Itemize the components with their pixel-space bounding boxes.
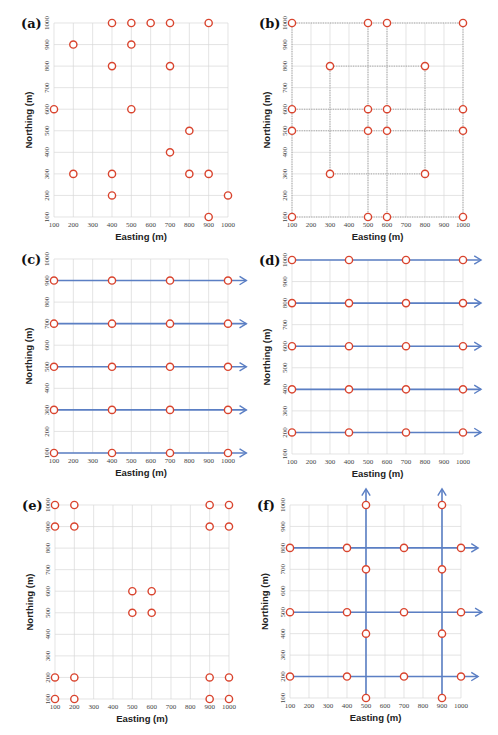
x-tick-labels: 1002003004005006007008009001000: [50, 703, 237, 711]
sample-point-marker: [364, 19, 371, 26]
sample-point-marker: [402, 256, 409, 263]
y-tick-label: 700: [44, 564, 52, 575]
y-tick-label: 1000: [281, 253, 289, 268]
sample-point-marker: [71, 674, 78, 681]
sample-point-marker: [166, 363, 173, 370]
x-tick-label: 200: [306, 221, 317, 229]
panel-e: 1002003004005006007008009001000100200300…: [22, 498, 237, 725]
sample-point-marker: [50, 406, 57, 413]
sample-point-marker: [166, 406, 173, 413]
y-tick-label: 400: [44, 629, 52, 640]
sample-point-marker: [205, 213, 212, 220]
x-tick-label: 500: [363, 221, 374, 229]
panel-label: (b): [259, 16, 280, 31]
traverse-route-arrow: [54, 363, 246, 371]
sample-point-marker: [147, 19, 154, 26]
sample-point-marker: [224, 192, 231, 199]
x-axis-title: Easting (m): [350, 712, 402, 723]
sample-point-marker: [166, 63, 173, 70]
y-tick-label: 100: [44, 693, 52, 704]
y-tick-label: 500: [281, 125, 289, 136]
x-tick-label: 1000: [456, 458, 471, 466]
sample-point-marker: [362, 694, 369, 701]
x-tick-label: 200: [68, 221, 79, 229]
sample-point-marker: [51, 695, 58, 702]
sample-point-marker: [345, 300, 352, 307]
y-tick-label: 600: [281, 340, 289, 351]
sample-point-marker: [186, 170, 193, 177]
y-tick-label: 100: [43, 447, 51, 458]
y-tick-label: 800: [279, 542, 287, 553]
gridlines: [292, 23, 463, 217]
sample-point-marker: [400, 609, 407, 616]
sample-point-marker: [343, 673, 350, 680]
sample-point-marker: [457, 673, 464, 680]
traverse-route-arrow: [292, 256, 481, 264]
sample-point-marker: [457, 544, 464, 551]
x-tick-label: 500: [126, 221, 137, 229]
sample-point-marker: [128, 19, 135, 26]
sample-point-marker: [288, 386, 295, 393]
x-tick-label: 300: [323, 702, 334, 710]
sample-point-marker: [288, 213, 295, 220]
sample-point-marker: [345, 386, 352, 393]
y-tick-labels: 1002003004005006007008009001000: [281, 253, 289, 460]
sample-point-marker: [288, 106, 295, 113]
sample-point-marker: [50, 277, 57, 284]
traverse-route-arrow: [54, 319, 246, 327]
x-tick-label: 600: [145, 457, 156, 465]
sample-point-marker: [51, 501, 58, 508]
y-tick-labels: 1002003004005006007008009001000: [43, 16, 51, 223]
y-tick-label: 400: [281, 147, 289, 158]
y-tick-label: 1000: [281, 16, 289, 31]
panel-label: (a): [21, 16, 42, 31]
x-tick-labels: 1002003004005006007008009001000: [287, 221, 471, 229]
y-tick-label: 600: [281, 103, 289, 114]
sample-point-marker: [438, 694, 445, 701]
sample-point-marker: [129, 588, 136, 595]
sample-point-marker: [108, 170, 115, 177]
x-tick-label: 700: [399, 702, 410, 710]
y-tick-label: 600: [279, 585, 287, 596]
y-tick-labels: 1002003004005006007008009001000: [43, 252, 51, 459]
sample-point-marker: [383, 19, 390, 26]
sample-point-marker: [50, 363, 57, 370]
survey-frame-line: [292, 23, 463, 217]
sample-point-marker: [288, 343, 295, 350]
y-tick-label: 800: [281, 297, 289, 308]
x-tick-label: 1000: [454, 702, 469, 710]
gridlines: [55, 505, 229, 699]
sample-point-marker: [108, 320, 115, 327]
x-tick-label: 200: [306, 458, 317, 466]
y-tick-label: 200: [281, 427, 289, 438]
y-tick-label: 500: [43, 125, 51, 136]
sample-point-marker: [166, 149, 173, 156]
sample-point-marker: [364, 127, 371, 134]
sample-point-marker: [206, 523, 213, 530]
sample-point-marker: [459, 300, 466, 307]
x-tick-label: 900: [204, 703, 215, 711]
traverse-route-arrow: [54, 449, 246, 457]
sample-point-marker: [459, 19, 466, 26]
gridlines: [290, 505, 461, 698]
traverse-route-arrow: [54, 406, 246, 414]
y-axis-title: Northing (m): [23, 92, 34, 149]
y-tick-label: 1000: [279, 498, 287, 513]
y-tick-label: 800: [43, 296, 51, 307]
panel-label: (e): [22, 498, 43, 513]
sample-point-marker: [148, 609, 155, 616]
sample-point-marker: [421, 63, 428, 70]
sample-point-marker: [128, 41, 135, 48]
sample-point-marker: [71, 523, 78, 530]
sample-points: [50, 19, 231, 220]
gridlines: [54, 259, 228, 453]
sample-point-marker: [362, 501, 369, 508]
panel-b: 1002003004005006007008009001000100200300…: [259, 16, 471, 243]
sample-point-marker: [224, 320, 231, 327]
y-tick-label: 900: [44, 521, 52, 532]
traverse-route-arrow: [290, 672, 478, 680]
y-tick-label: 400: [43, 147, 51, 158]
sample-point-marker: [288, 429, 295, 436]
traverse-route-arrow: [362, 489, 370, 698]
y-tick-label: 700: [279, 564, 287, 575]
